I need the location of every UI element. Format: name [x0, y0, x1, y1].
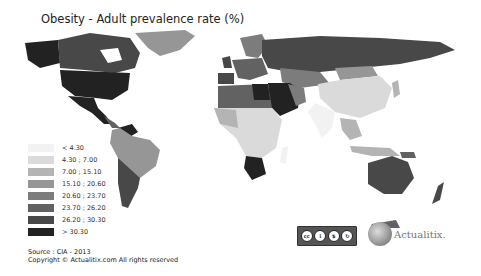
region-egypt — [252, 84, 270, 100]
legend: < 4.30 4.30 ; 7.00 7.00 ; 15.10 15.10 ; … — [28, 142, 106, 238]
globe-icon — [368, 222, 392, 246]
legend-label: 26.20 ; 30.30 — [62, 216, 106, 224]
region-india — [308, 103, 335, 138]
cc-icon: cc — [301, 230, 313, 242]
region-australia — [368, 156, 414, 194]
legend-label: > 30.30 — [62, 228, 88, 236]
region-russia — [262, 36, 455, 72]
legend-item: 15.10 ; 20.60 — [28, 178, 106, 189]
region-southern-africa — [244, 156, 266, 180]
source-text: Source : CIA - 2013 — [28, 248, 178, 256]
region-uk — [222, 56, 232, 68]
legend-label: 7.00 ; 15.10 — [62, 168, 101, 176]
region-spain — [218, 73, 234, 84]
legend-swatch — [28, 168, 54, 176]
region-alaska — [25, 40, 60, 68]
region-new-zealand — [432, 182, 444, 204]
by-icon: i — [314, 230, 326, 242]
legend-item: 7.00 ; 15.10 — [28, 166, 106, 177]
region-canada — [58, 33, 140, 73]
legend-item: 23.70 ; 26.20 — [28, 202, 106, 213]
region-indonesia — [350, 146, 400, 156]
legend-label: 20.60 ; 23.70 — [62, 192, 106, 200]
legend-item: 4.30 ; 7.00 — [28, 154, 106, 165]
copyright-text: Copyright © Actualitix.com All rights re… — [28, 256, 178, 264]
region-europe — [232, 58, 268, 80]
legend-swatch — [28, 156, 54, 164]
legend-label: 23.70 ; 26.20 — [62, 204, 106, 212]
nc-icon: $ — [328, 230, 340, 242]
legend-swatch — [28, 204, 54, 212]
region-southeast-asia — [340, 118, 362, 140]
legend-label: 15.10 ; 20.60 — [62, 180, 106, 188]
legend-item: 26.20 ; 30.30 — [28, 214, 106, 225]
cc-license-badge[interactable]: cc i $ ↻ — [297, 226, 357, 246]
legend-item: < 4.30 — [28, 142, 106, 153]
legend-swatch — [28, 180, 54, 188]
legend-swatch — [28, 144, 54, 152]
legend-label: < 4.30 — [62, 144, 84, 152]
region-mexico — [68, 96, 112, 124]
legend-label: 4.30 ; 7.00 — [62, 156, 97, 164]
sa-icon: ↻ — [341, 230, 353, 242]
source-note: Source : CIA - 2013 Copyright © Actualit… — [28, 248, 178, 264]
actualitix-logo[interactable]: Actualitix. — [368, 222, 446, 246]
region-madagascar — [280, 146, 288, 164]
region-greenland — [135, 30, 195, 56]
legend-swatch — [28, 228, 54, 236]
map-title: Obesity - Adult prevalence rate (%) — [41, 12, 244, 26]
legend-swatch — [28, 192, 54, 200]
region-west-africa — [214, 108, 238, 128]
region-png — [400, 152, 416, 158]
region-japan — [392, 80, 400, 98]
region-usa — [60, 70, 130, 100]
legend-swatch — [28, 216, 54, 224]
legend-item: 20.60 ; 23.70 — [28, 190, 106, 201]
legend-item: > 30.30 — [28, 226, 106, 237]
logo-text: Actualitix. — [394, 229, 446, 240]
region-south-america — [110, 128, 160, 180]
